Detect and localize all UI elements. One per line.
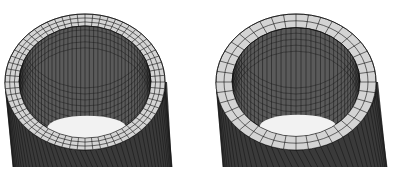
mesh-tube-coarse <box>200 0 397 178</box>
coarse-mesh-cylinder-graphic <box>200 0 397 178</box>
fine-mesh-cylinder-graphic <box>0 0 200 178</box>
mesh-tube-fine <box>0 0 200 178</box>
